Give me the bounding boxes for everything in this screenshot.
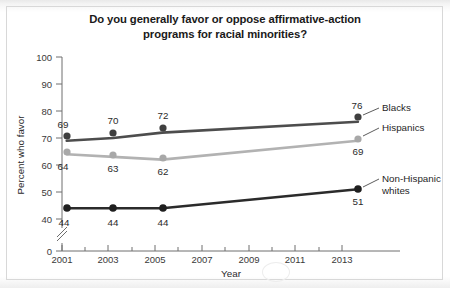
blacks-point-2001 xyxy=(63,132,70,139)
non-hispanic-whites-value-label-2005: 44 xyxy=(158,217,169,228)
x-tick-label-2003: 2003 xyxy=(97,254,118,265)
non-hispanic-whites-point-2013 xyxy=(354,185,362,193)
x-tick-label-2011: 2011 xyxy=(285,254,305,265)
blacks-value-label-2001: 69 xyxy=(58,119,69,130)
plot-area: Do you generally favor or oppose affirma… xyxy=(0,0,450,288)
hispanics-point-2005 xyxy=(159,154,166,161)
blacks-leader-line xyxy=(363,108,379,115)
series-blacks: 69 70 72 76 Blacks xyxy=(58,100,411,141)
x-tick-label-2009: 2009 xyxy=(238,254,259,265)
hispanics-point-2013 xyxy=(354,135,361,142)
non-hispanic-whites-value-label-2003: 44 xyxy=(108,217,119,228)
series-non-hispanic-whites: 44 44 44 51 Non-Hispanic whites xyxy=(59,173,441,228)
blacks-point-2003 xyxy=(109,129,116,136)
y-axis-title: Percent who favor xyxy=(15,115,26,195)
y-tick-label-50: 50 xyxy=(41,187,52,198)
y-tick-label-100: 100 xyxy=(36,52,52,63)
blacks-value-label-2003: 70 xyxy=(108,115,119,126)
y-tick-label-60: 60 xyxy=(41,160,52,171)
non-hispanic-whites-point-2005 xyxy=(159,204,167,212)
x-tick-label-2001: 2001 xyxy=(51,254,72,265)
blacks-point-2005 xyxy=(159,124,166,131)
hispanics-value-label-2003: 63 xyxy=(108,163,119,174)
hispanics-value-label-2005: 62 xyxy=(158,166,169,177)
blacks-value-label-2005: 72 xyxy=(158,110,169,121)
chart-figure: Do you generally favor or oppose affirma… xyxy=(0,0,450,288)
series-label-hispanics: Hispanics xyxy=(382,122,425,133)
series-label-non-hispanic-whites-line-2: whites xyxy=(381,185,410,196)
y-tick-label-70: 70 xyxy=(41,133,52,144)
y-tick-label-80: 80 xyxy=(41,106,52,117)
x-tick-label-2007: 2007 xyxy=(191,254,212,265)
x-tick-label-2013: 2013 xyxy=(331,254,352,265)
non-hispanic-whites-point-2001 xyxy=(63,204,71,212)
x-axis: 2001 2003 2005 2007 2009 2011 2013 Year xyxy=(51,245,400,279)
non-hispanic-whites-leader-line xyxy=(363,179,379,187)
y-tick-label-90: 90 xyxy=(41,79,52,90)
series-label-non-hispanic-whites-line-1: Non-Hispanic xyxy=(382,173,441,184)
y-tick-label-40: 40 xyxy=(41,214,52,225)
non-hispanic-whites-value-label-2013: 51 xyxy=(353,196,364,207)
hispanics-point-2003 xyxy=(109,151,116,158)
hispanics-value-label-2013: 69 xyxy=(353,146,364,157)
non-hispanic-whites-value-label-2001: 44 xyxy=(59,217,70,228)
series-label-blacks: Blacks xyxy=(382,102,411,113)
non-hispanic-whites-point-2003 xyxy=(109,204,117,212)
line-chart-svg: 100 90 80 70 60 50 40 0 Percent who favo… xyxy=(0,0,450,288)
hispanics-leader-line xyxy=(363,128,379,136)
hispanics-value-label-2001: 64 xyxy=(58,161,69,172)
hispanics-point-2001 xyxy=(63,148,70,155)
x-axis-title: Year xyxy=(221,268,242,279)
blacks-value-label-2013: 76 xyxy=(352,100,363,111)
x-tick-label-2005: 2005 xyxy=(144,254,165,265)
blacks-point-2013 xyxy=(354,113,361,120)
